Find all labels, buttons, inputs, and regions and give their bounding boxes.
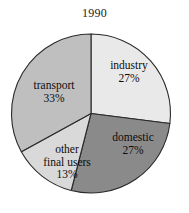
pie-chart-svg (0, 0, 189, 213)
pie-slices-group (11, 34, 170, 193)
pie-slice-industry (91, 34, 170, 123)
pie-chart-figure: 1990 industry 27% domestic 27% other fin… (0, 0, 189, 213)
